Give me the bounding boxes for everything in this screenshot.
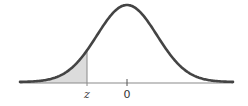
- normal-density-curve: [20, 5, 233, 82]
- z-label: z: [83, 88, 90, 101]
- zero-label: 0: [124, 88, 131, 101]
- normal-curve-chart: z 0: [0, 0, 248, 106]
